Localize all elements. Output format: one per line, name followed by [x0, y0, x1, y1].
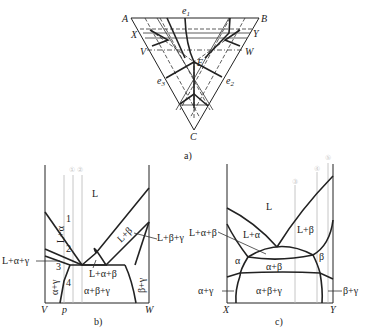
vertex-a-label: A [121, 13, 129, 24]
alloy-marker-3: ③ [292, 178, 298, 186]
section-v-label: V [140, 46, 148, 57]
vertical-section-c: ③ ④ ⑤ L L+α L+β L+α+β α β α+β α+β+γ α+γ … [189, 154, 359, 328]
caption-c: c) [275, 316, 283, 328]
axis-y-label: Y [330, 304, 337, 315]
region-c-alpha-gamma: α+γ [198, 285, 214, 296]
axis-p-label: p [61, 304, 67, 315]
section-w-label: W [245, 46, 255, 57]
region-L-alpha-beta: L+α+β [89, 268, 117, 279]
region-L: L [92, 188, 98, 199]
region-L-alpha-gamma: L+α+γ [2, 255, 30, 266]
section-y-label: Y [253, 28, 260, 39]
region-c-alpha-beta: α+β [266, 261, 282, 272]
axis-x-label: X [222, 304, 230, 315]
region-c-alpha: α [235, 255, 241, 266]
ternary-projection-a: A B C e1 e2 e3 E X Y V W a) [121, 5, 267, 162]
caption-a: a) [184, 150, 192, 162]
region-c-L-alpha-beta: L+α+β [189, 227, 217, 238]
point-e1-label: e1 [182, 5, 190, 18]
ternary-triangle [131, 18, 259, 130]
region-L-alpha: L+α [55, 225, 66, 243]
alloy-marker-2: ② [77, 166, 83, 174]
region-alpha-gamma: α+γ [49, 279, 60, 295]
region-c-alpha-beta-gamma: α+β+γ [256, 285, 283, 296]
point-E-label: E [196, 57, 203, 68]
vertex-b-label: B [261, 13, 267, 24]
number-2: 2 [66, 243, 71, 254]
region-c-L-alpha: L+α [243, 229, 261, 240]
region-c-beta: β [319, 251, 324, 262]
alloy-marker-1: ① [69, 166, 75, 174]
region-alpha-beta-gamma: α+β+γ [84, 285, 111, 296]
number-3: 3 [56, 261, 61, 272]
point-e2-label: e2 [226, 75, 234, 88]
region-c-beta-gamma: β+γ [343, 285, 359, 296]
number-1: 1 [66, 213, 71, 224]
number-4: 4 [66, 277, 71, 288]
alloy-marker-4: ④ [314, 165, 320, 173]
vertex-c-label: C [190, 131, 197, 142]
caption-b: b) [94, 316, 102, 328]
phase-diagram-figure: A B C e1 e2 e3 E X Y V W a) ① ② [0, 0, 367, 335]
region-c-L-beta: L+β [297, 224, 314, 235]
axis-w-label: W [145, 304, 155, 315]
region-c-L: L [266, 201, 272, 212]
axis-v-label: V [41, 304, 49, 315]
vertical-section-b: ① ② L 1 2 3 4 L+α L+β α+γ β+γ L+α+γ L+β+… [2, 165, 184, 328]
alloy-marker-5: ⑤ [325, 154, 331, 162]
region-beta-gamma: β+γ [136, 277, 147, 293]
region-L-beta-gamma: L+β+γ [157, 232, 184, 243]
valley-e1-E [185, 18, 194, 62]
section-x-label: X [130, 29, 138, 40]
